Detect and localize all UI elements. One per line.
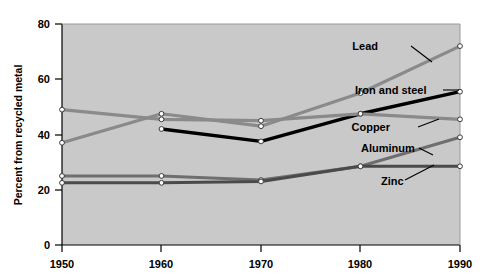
data-point-marker	[259, 139, 264, 144]
data-point-marker	[159, 111, 164, 116]
y-tick-label-60: 60	[38, 73, 50, 85]
plot-area-background	[62, 24, 460, 245]
x-tick-label-1990: 1990	[448, 258, 472, 270]
data-point-marker	[259, 179, 264, 184]
series-label-zinc: Zinc	[381, 175, 404, 187]
data-point-marker	[358, 164, 363, 169]
series-label-copper: Copper	[352, 121, 391, 133]
data-point-marker	[159, 180, 164, 185]
y-tick-label-80: 80	[38, 18, 50, 30]
data-point-marker	[458, 135, 463, 140]
data-point-marker	[458, 164, 463, 169]
data-point-marker	[458, 44, 463, 49]
data-point-marker	[259, 118, 264, 123]
data-point-marker	[60, 180, 65, 185]
data-point-marker	[159, 117, 164, 122]
data-point-marker	[259, 124, 264, 129]
data-point-marker	[159, 174, 164, 179]
x-tick-label-1970: 1970	[249, 258, 273, 270]
y-tick-label-0: 0	[44, 239, 50, 251]
data-point-marker	[60, 174, 65, 179]
series-label-aluminum: Aluminum	[361, 142, 415, 154]
data-point-marker	[159, 127, 164, 132]
y-tick-label-40: 40	[38, 129, 50, 141]
x-tick-label-1950: 1950	[50, 258, 74, 270]
data-point-marker	[60, 107, 65, 112]
y-tick-label-20: 20	[38, 184, 50, 196]
data-point-marker	[60, 140, 65, 145]
x-tick-label-1980: 1980	[348, 258, 372, 270]
series-label-lead: Lead	[352, 40, 378, 52]
data-point-marker	[358, 111, 363, 116]
chart-figure: 80 60 40 20 0 1950 1960 1970 1980 1990 P…	[0, 0, 490, 279]
y-axis-title: Percent from recycled metal	[12, 65, 24, 206]
series-label-iron-and-steel: Iron and steel	[355, 84, 427, 96]
data-point-marker	[458, 117, 463, 122]
recycled-metal-line-chart: 80 60 40 20 0 1950 1960 1970 1980 1990 P…	[0, 0, 490, 279]
x-tick-label-1960: 1960	[149, 258, 173, 270]
